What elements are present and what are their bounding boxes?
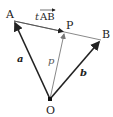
origin-point xyxy=(48,97,52,101)
label-vector-p: p xyxy=(48,55,55,66)
label-ab: AB xyxy=(39,11,55,22)
label-a-point: A xyxy=(5,8,15,21)
label-p-point: P xyxy=(66,19,74,32)
vector-p-arrow xyxy=(50,34,64,99)
vector-tab-arrow xyxy=(14,21,63,32)
vector-b-arrow xyxy=(50,42,99,99)
vector-diagram: A B P O t AB a p b xyxy=(0,0,113,117)
label-vector-b: b xyxy=(80,67,87,78)
diagram-canvas: A B P O t AB a p b xyxy=(0,0,113,117)
label-vector-a: a xyxy=(17,53,23,64)
label-b-point: B xyxy=(102,28,110,41)
label-o-point: O xyxy=(46,104,55,117)
